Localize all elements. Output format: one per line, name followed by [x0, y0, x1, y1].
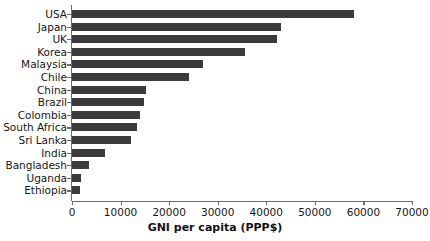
bar-row	[72, 71, 412, 83]
x-axis-tick	[412, 201, 413, 205]
y-axis-tick	[67, 77, 71, 78]
y-axis-tick	[67, 153, 71, 154]
x-axis-tick-label: 10000	[104, 206, 137, 219]
x-axis-title: GNI per capita (PPP$)	[0, 221, 430, 234]
x-axis-tick	[266, 201, 267, 205]
x-axis-tick	[218, 201, 219, 205]
y-axis-label: Colombia	[0, 109, 67, 121]
y-axis-label: Malaysia	[0, 58, 67, 70]
y-axis-label: Chile	[0, 71, 67, 83]
y-axis-label: USA	[0, 8, 67, 20]
bar-row	[72, 21, 412, 33]
bar	[72, 136, 131, 144]
y-axis-label: Sri Lanka	[0, 134, 67, 146]
bar-row	[72, 159, 412, 171]
y-axis-tick	[67, 14, 71, 15]
x-axis-tick-label: 70000	[395, 206, 428, 219]
y-axis-tick	[67, 190, 71, 191]
bar	[72, 35, 277, 43]
y-axis-label: Bangladesh	[0, 159, 67, 171]
y-axis-tick	[67, 102, 71, 103]
bar-row	[72, 147, 412, 159]
x-axis-tick-label: 40000	[250, 206, 283, 219]
bar	[72, 10, 354, 18]
bar	[72, 23, 281, 31]
x-axis-tick	[315, 201, 316, 205]
bar-row	[72, 84, 412, 96]
bar-row	[72, 46, 412, 58]
y-axis-tick	[67, 127, 71, 128]
bar-row	[72, 33, 412, 45]
bar	[72, 73, 189, 81]
y-axis-label: Japan	[0, 21, 67, 33]
bar	[72, 123, 137, 131]
y-axis-label: India	[0, 147, 67, 159]
x-axis-line	[72, 201, 413, 202]
y-axis-tick	[67, 39, 71, 40]
x-axis-tick-label: 30000	[201, 206, 234, 219]
y-axis-tick	[67, 64, 71, 65]
x-axis-tick	[72, 201, 73, 205]
bar-row	[72, 109, 412, 121]
bar	[72, 161, 89, 169]
plot-area	[72, 5, 412, 201]
bar-row	[72, 172, 412, 184]
bar	[72, 60, 203, 68]
y-axis-label: South Africa	[0, 121, 67, 133]
bar-row	[72, 8, 412, 20]
bar-row	[72, 58, 412, 70]
bar	[72, 98, 144, 106]
x-axis-tick	[363, 201, 364, 205]
y-axis-tick	[67, 115, 71, 116]
bar-chart: USAJapanUKKoreaMalaysiaChileChinaBrazilC…	[0, 0, 430, 241]
x-axis-tick-label: 0	[69, 206, 76, 219]
y-axis-label: Uganda	[0, 172, 67, 184]
y-axis-tick	[67, 165, 71, 166]
bar-row	[72, 121, 412, 133]
y-axis-tick	[67, 52, 71, 53]
y-axis-tick	[67, 140, 71, 141]
y-axis-label: Ethiopia	[0, 184, 67, 196]
x-axis-tick-label: 60000	[347, 206, 380, 219]
bar	[72, 186, 80, 194]
y-axis-tick	[67, 90, 71, 91]
x-axis-tick-label: 50000	[298, 206, 331, 219]
x-axis-tick	[121, 201, 122, 205]
bar	[72, 111, 140, 119]
bar-row	[72, 96, 412, 108]
y-axis-tick	[67, 178, 71, 179]
y-axis-label: UK	[0, 33, 67, 45]
bar	[72, 86, 146, 94]
y-axis-category-labels: USAJapanUKKoreaMalaysiaChileChinaBrazilC…	[0, 5, 67, 201]
bar	[72, 48, 245, 56]
y-axis-tick	[67, 27, 71, 28]
bar	[72, 149, 105, 157]
y-axis-label: Brazil	[0, 96, 67, 108]
y-axis-label: China	[0, 84, 67, 96]
bar-row	[72, 184, 412, 196]
bar	[72, 174, 81, 182]
x-axis-tick-label: 20000	[152, 206, 185, 219]
y-axis-label: Korea	[0, 46, 67, 58]
x-axis-tick	[169, 201, 170, 205]
bar-row	[72, 134, 412, 146]
